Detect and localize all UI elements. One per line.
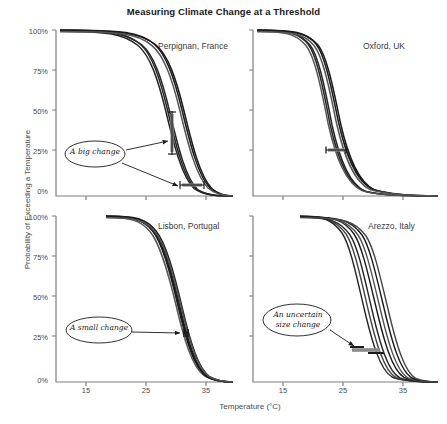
panel-curves-perpignan [60, 30, 233, 196]
climate-figure: Measuring Climate Change at a Threshold … [0, 0, 447, 424]
panel-curves-oxford [257, 30, 438, 196]
axes [52, 30, 438, 386]
callout-small-change [66, 317, 180, 343]
callout-uncertain-change [263, 304, 354, 346]
panel-curves-arezzo [300, 216, 438, 382]
chart-canvas [0, 0, 447, 424]
panel-curves-lisbon [106, 216, 233, 382]
callout-big-change [65, 141, 178, 186]
